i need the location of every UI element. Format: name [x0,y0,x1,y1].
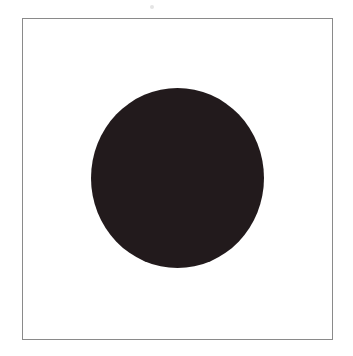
dark-circle [91,88,264,268]
faint-mark [150,5,154,9]
